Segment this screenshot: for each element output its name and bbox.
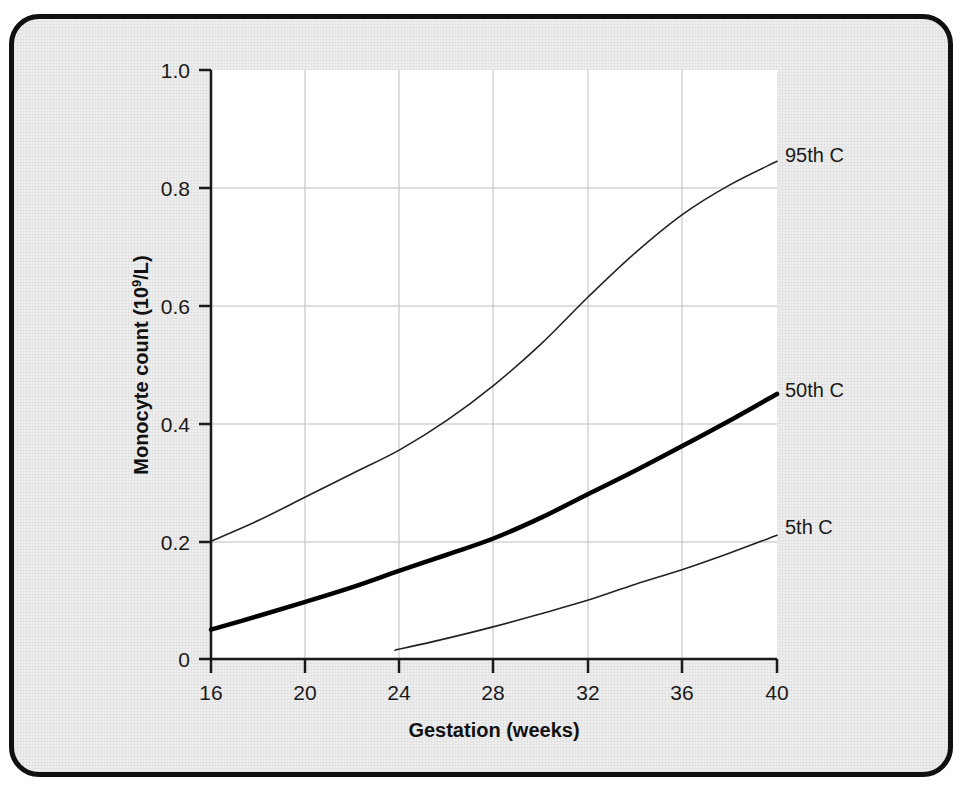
y-axis-title-main: Monocyte count (10 [130,287,152,475]
x-tick-label-36: 36 [670,681,693,704]
chart-svg: 1.0 0.8 0.6 0.4 0.2 0 16 20 24 28 32 36 … [0,0,963,793]
y-axis-title-tail: /L) [130,255,152,279]
centile-chart: 1.0 0.8 0.6 0.4 0.2 0 16 20 24 28 32 36 … [0,0,963,793]
x-axis-title: Gestation (weeks) [408,719,579,741]
curve-label-95th: 95th C [785,144,844,166]
x-tick-label-32: 32 [576,681,599,704]
y-tick-label-0.4: 0.4 [161,413,191,436]
x-tick-label-28: 28 [481,681,504,704]
svg-text:Monocyte count (109/L): Monocyte count (109/L) [129,255,152,474]
figure-page: 1.0 0.8 0.6 0.4 0.2 0 16 20 24 28 32 36 … [0,0,963,793]
y-axis-ticks [199,70,211,659]
plot-background [211,70,777,659]
x-axis-ticks [211,659,777,673]
x-tick-label-16: 16 [199,681,222,704]
x-tick-label-20: 20 [293,681,316,704]
x-tick-label-24: 24 [387,681,411,704]
y-tick-label-0.2: 0.2 [161,531,190,554]
y-tick-label-0.6: 0.6 [161,295,190,318]
y-tick-label-1.0: 1.0 [161,59,190,82]
y-axis-title: Monocyte count (109/L) [129,255,152,474]
curve-label-50th: 50th C [785,379,844,401]
y-tick-label-0.8: 0.8 [161,177,190,200]
y-axis-title-superscript: 9 [129,280,144,287]
curve-label-5th: 5th C [785,516,833,538]
x-tick-label-40: 40 [765,681,788,704]
y-tick-label-0: 0 [178,648,190,671]
